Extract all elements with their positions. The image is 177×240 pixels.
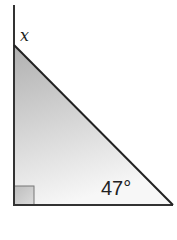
angle-47-label: 47° bbox=[101, 177, 131, 200]
angle-x-label: x bbox=[20, 26, 29, 45]
right-angle-marker bbox=[14, 186, 34, 205]
